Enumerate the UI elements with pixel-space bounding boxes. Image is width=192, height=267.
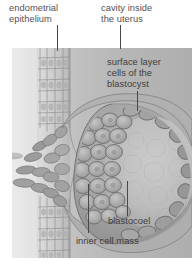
leader-line-endometrial-epithelium	[57, 25, 58, 51]
label-surface-layer-cells-line3: blastocyst	[107, 79, 161, 90]
leader-line-surface-layer-cells	[137, 91, 138, 111]
label-cavity-inside-uterus-line1: cavity inside	[101, 3, 152, 14]
label-surface-layer-cells-line1: surface layer	[107, 57, 161, 68]
blastocyst-implantation-figure	[0, 0, 192, 267]
leader-line-inner-cell-mass	[88, 184, 89, 233]
leader-line-blastocoel	[127, 181, 128, 216]
label-inner-cell-mass: inner cell mass	[76, 236, 139, 247]
label-surface-layer-cells: surface layer cells of the blastocyst	[107, 57, 161, 91]
label-cavity-inside-uterus: cavity inside the uterus	[101, 3, 152, 25]
label-surface-layer-cells-line2: cells of the	[107, 68, 161, 79]
label-endometrial-epithelium: endometrial epithelium	[9, 3, 58, 25]
label-blastocoel: blastocoel	[108, 216, 150, 227]
label-endometrial-epithelium-line1: endometrial	[9, 3, 58, 14]
label-endometrial-epithelium-line2: epithelium	[9, 14, 58, 25]
leader-line-cavity-inside-uterus	[120, 25, 121, 49]
panel-shading-overlay	[12, 48, 192, 258]
label-inner-cell-mass-line1: inner cell mass	[76, 236, 139, 247]
label-cavity-inside-uterus-line2: the uterus	[101, 14, 152, 25]
label-blastocoel-line1: blastocoel	[108, 216, 150, 227]
